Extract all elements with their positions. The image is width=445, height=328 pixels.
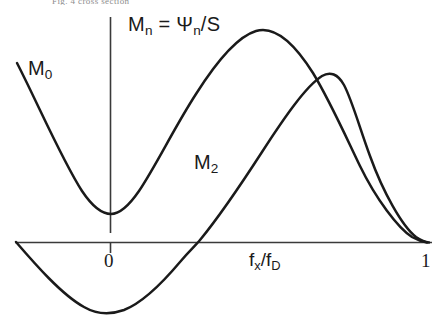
formula-rhs-main: Ψ: [176, 13, 193, 35]
formula-lhs-sub: n: [145, 23, 153, 38]
curve-label-m0-main: M: [28, 57, 45, 79]
curve-m2: [16, 74, 429, 313]
curve-label-m0: M0: [28, 58, 52, 81]
curve-label-m0-sub: 0: [45, 67, 53, 82]
formula-rhs-tail: /S: [201, 13, 221, 35]
formula-lhs-main: M: [128, 13, 145, 35]
title-formula: Mn = Ψn/S: [128, 14, 220, 37]
x-tick-label-one: 1: [421, 251, 431, 270]
formula-rhs-sub: n: [193, 23, 201, 38]
plot-canvas: [0, 0, 445, 328]
formula-equals: =: [153, 13, 177, 35]
curve-label-m2: M2: [194, 152, 218, 175]
curve-label-m2-sub: 2: [211, 161, 219, 176]
x-tick-label-origin: 0: [104, 251, 114, 270]
curve-label-m2-main: M: [194, 151, 211, 173]
figure-container: Fig. 4 cross section Mn = Ψn/S M0 M2 fx/…: [0, 0, 445, 328]
x-axis-label-fd-sub: D: [271, 258, 280, 273]
x-axis-label: fx/fD: [249, 250, 281, 273]
